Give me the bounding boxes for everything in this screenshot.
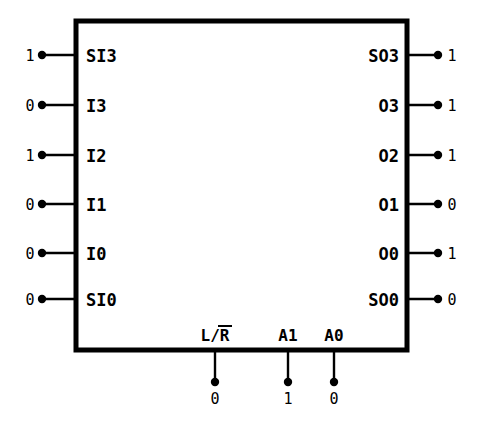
control-label-a0: A0	[324, 326, 343, 345]
control-node-dot-lr[interactable]	[211, 378, 219, 386]
input-label-i3: I3	[86, 96, 106, 116]
output-label-o3: O3	[379, 96, 399, 116]
control-pin-a0: A00	[324, 326, 343, 408]
control-label-prefix-lr: L/	[201, 326, 220, 345]
control-pin-a1: A11	[278, 326, 297, 408]
output-pin-so0: SO00	[368, 290, 456, 310]
control-pin-lr: L/R0	[201, 326, 232, 408]
output-value-o1: 0	[447, 196, 456, 214]
input-value-si0: 0	[25, 291, 34, 309]
control-label-lr: L/R	[201, 326, 230, 345]
output-node-dot-o2[interactable]	[434, 151, 442, 159]
input-pin-i3: 0I3	[25, 96, 106, 116]
control-label-a1: A1	[278, 326, 297, 345]
input-pin-i1: 0I1	[25, 195, 106, 215]
input-pin-si0: 0SI0	[25, 290, 116, 310]
input-label-i2: I2	[86, 146, 106, 166]
output-value-o3: 1	[447, 97, 456, 115]
input-label-si3: SI3	[86, 46, 117, 66]
input-value-i2: 1	[25, 147, 34, 165]
output-pin-o3: O31	[379, 96, 457, 116]
input-label-i1: I1	[86, 195, 106, 215]
output-pin-so3: SO31	[368, 46, 456, 66]
input-value-i1: 0	[25, 196, 34, 214]
control-value-lr: 0	[210, 390, 219, 408]
output-label-o2: O2	[379, 146, 399, 166]
input-pin-si3: 1SI3	[25, 46, 116, 66]
input-value-si3: 1	[25, 47, 34, 65]
control-label-overbarred-lr: R	[220, 326, 230, 345]
output-value-so3: 1	[447, 47, 456, 65]
output-pin-o0: O01	[379, 244, 457, 264]
block-diagram: 1SI30I31I20I10I00SI0 SO31O31O21O10O01SO0…	[0, 0, 486, 428]
input-pin-i0: 0I0	[25, 244, 106, 264]
chip-outline	[76, 21, 407, 350]
input-value-i0: 0	[25, 245, 34, 263]
output-pin-o2: O21	[379, 146, 457, 166]
input-label-si0: SI0	[86, 290, 117, 310]
output-node-dot-o3[interactable]	[434, 101, 442, 109]
output-label-so0: SO0	[368, 290, 399, 310]
diagram-canvas: 1SI30I31I20I10I00SI0 SO31O31O21O10O01SO0…	[0, 0, 486, 428]
control-value-a0: 0	[329, 390, 338, 408]
output-label-o1: O1	[379, 195, 399, 215]
output-label-so3: SO3	[368, 46, 399, 66]
input-value-i3: 0	[25, 97, 34, 115]
output-value-o2: 1	[447, 147, 456, 165]
output-node-dot-o0[interactable]	[434, 249, 442, 257]
output-node-dot-so3[interactable]	[434, 51, 442, 59]
output-value-so0: 0	[447, 291, 456, 309]
control-node-dot-a0[interactable]	[330, 378, 338, 386]
input-pin-i2: 1I2	[25, 146, 106, 166]
input-label-i0: I0	[86, 244, 106, 264]
output-node-dot-o1[interactable]	[434, 200, 442, 208]
output-pin-o1: O10	[379, 195, 457, 215]
chip-body	[76, 21, 407, 350]
control-node-dot-a1[interactable]	[284, 378, 292, 386]
control-value-a1: 1	[283, 390, 292, 408]
output-node-dot-so0[interactable]	[434, 295, 442, 303]
output-value-o0: 1	[447, 245, 456, 263]
output-label-o0: O0	[379, 244, 399, 264]
